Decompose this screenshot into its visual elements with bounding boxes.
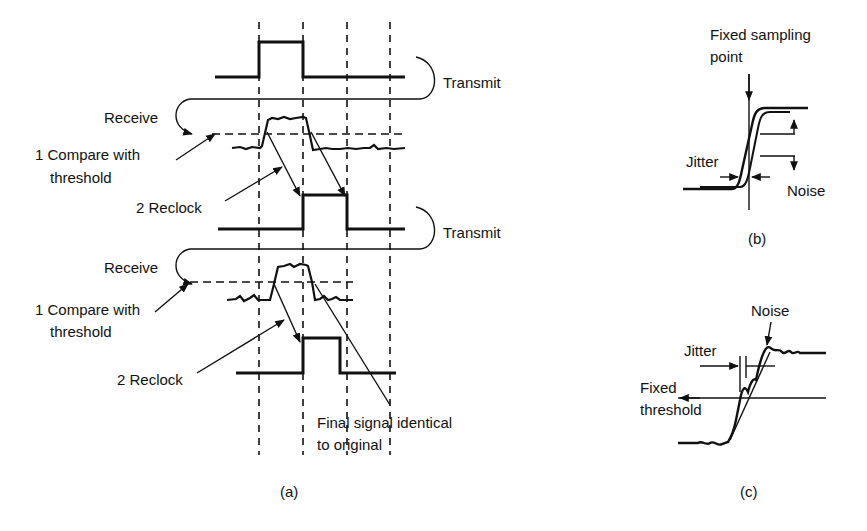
noisy-transition	[678, 347, 826, 445]
diagram-svg: Transmit Receive 1 Compare with threshol…	[0, 0, 867, 531]
compare-label-2a: 1 Compare with	[35, 301, 140, 318]
panel-c: Noise Jitter Fixed threshold (c)	[640, 302, 826, 500]
clock-lines	[259, 22, 390, 455]
ideal-transition	[730, 352, 770, 440]
receive-loop-1	[176, 99, 215, 134]
compare-label-1a: 1 Compare with	[35, 146, 140, 163]
threshold-label-a: Fixed	[640, 379, 677, 396]
reclock-label-2: 2 Reclock	[117, 371, 183, 388]
receive-loop-2	[176, 249, 215, 284]
transition-curve-2	[700, 112, 790, 187]
compare-label-2b: threshold	[50, 323, 112, 340]
original-pulse	[215, 42, 405, 77]
noise-label-b: Noise	[787, 182, 825, 199]
caption-c: (c)	[740, 483, 758, 500]
transmit-label-1: Transmit	[443, 74, 502, 91]
final-label-a: Final signal identical	[317, 414, 452, 431]
panel-a: Transmit Receive 1 Compare with threshol…	[35, 22, 502, 500]
receive-label-1: Receive	[104, 109, 158, 126]
reclocked-pulse-1	[218, 195, 405, 229]
reclock-label-1: 2 Reclock	[136, 199, 202, 216]
final-pulse	[236, 338, 396, 373]
sampling-label-b: point	[710, 48, 743, 65]
threshold-label-b: threshold	[640, 401, 702, 418]
caption-b: (b)	[748, 230, 766, 247]
jitter-label-c: Jitter	[684, 342, 717, 359]
final-label-b: to original	[317, 436, 382, 453]
panel-b: Fixed sampling point Jitter Noise (b)	[683, 26, 825, 247]
caption-a: (a)	[280, 483, 298, 500]
transmit-label-2: Transmit	[443, 224, 502, 241]
jitter-label-b: Jitter	[686, 153, 719, 170]
diagram-canvas: Transmit Receive 1 Compare with threshol…	[0, 0, 867, 531]
compare-label-1b: threshold	[50, 169, 112, 186]
receive-label-2: Receive	[104, 259, 158, 276]
sampling-label-a: Fixed sampling	[710, 26, 811, 43]
noise-label-c: Noise	[751, 302, 789, 319]
transition-curve-1	[683, 108, 808, 189]
